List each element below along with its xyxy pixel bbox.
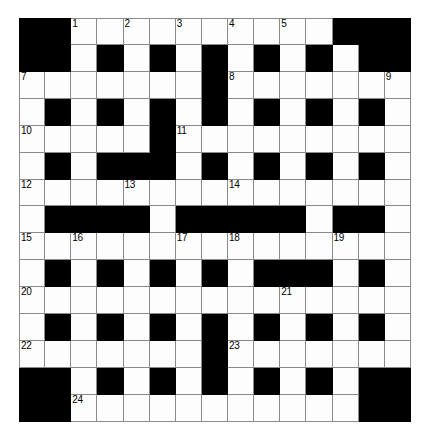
letter-cell[interactable] <box>71 180 97 207</box>
letter-cell[interactable] <box>19 260 45 287</box>
letter-cell[interactable]: 15 <box>19 233 45 260</box>
letter-cell[interactable] <box>124 260 150 287</box>
letter-cell[interactable] <box>254 233 280 260</box>
letter-cell[interactable] <box>71 153 97 180</box>
letter-cell[interactable]: 12 <box>19 180 45 207</box>
letter-cell[interactable] <box>385 314 411 341</box>
letter-cell[interactable] <box>359 72 385 99</box>
letter-cell[interactable] <box>45 287 71 314</box>
letter-cell[interactable] <box>97 126 123 153</box>
letter-cell[interactable]: 10 <box>19 126 45 153</box>
letter-cell[interactable] <box>124 314 150 341</box>
letter-cell[interactable] <box>306 341 332 368</box>
letter-cell[interactable] <box>45 180 71 207</box>
letter-cell[interactable] <box>333 314 359 341</box>
letter-cell[interactable] <box>71 260 97 287</box>
letter-cell[interactable] <box>228 126 254 153</box>
letter-cell[interactable] <box>385 180 411 207</box>
letter-cell[interactable] <box>306 395 332 422</box>
letter-cell[interactable] <box>228 314 254 341</box>
letter-cell[interactable] <box>124 368 150 395</box>
letter-cell[interactable] <box>176 341 202 368</box>
letter-cell[interactable] <box>19 99 45 126</box>
letter-cell[interactable] <box>280 72 306 99</box>
letter-cell[interactable] <box>202 18 228 45</box>
letter-cell[interactable] <box>176 368 202 395</box>
letter-cell[interactable] <box>385 341 411 368</box>
letter-cell[interactable] <box>97 18 123 45</box>
letter-cell[interactable] <box>280 45 306 72</box>
letter-cell[interactable] <box>254 126 280 153</box>
letter-cell[interactable] <box>124 287 150 314</box>
letter-cell[interactable]: 13 <box>124 180 150 207</box>
letter-cell[interactable] <box>228 99 254 126</box>
letter-cell[interactable] <box>359 233 385 260</box>
letter-cell[interactable] <box>254 341 280 368</box>
letter-cell[interactable] <box>150 233 176 260</box>
letter-cell[interactable] <box>333 287 359 314</box>
letter-cell[interactable] <box>124 341 150 368</box>
letter-cell[interactable] <box>71 72 97 99</box>
letter-cell[interactable] <box>124 126 150 153</box>
letter-cell[interactable] <box>333 45 359 72</box>
letter-cell[interactable]: 19 <box>333 233 359 260</box>
letter-cell[interactable]: 18 <box>228 233 254 260</box>
letter-cell[interactable] <box>306 18 332 45</box>
letter-cell[interactable] <box>71 314 97 341</box>
letter-cell[interactable]: 14 <box>228 180 254 207</box>
letter-cell[interactable] <box>280 153 306 180</box>
letter-cell[interactable] <box>306 72 332 99</box>
letter-cell[interactable] <box>150 18 176 45</box>
letter-cell[interactable] <box>333 341 359 368</box>
letter-cell[interactable] <box>385 287 411 314</box>
letter-cell[interactable] <box>385 153 411 180</box>
letter-cell[interactable] <box>124 45 150 72</box>
letter-cell[interactable] <box>176 395 202 422</box>
letter-cell[interactable] <box>333 153 359 180</box>
letter-cell[interactable] <box>19 206 45 233</box>
letter-cell[interactable] <box>280 99 306 126</box>
letter-cell[interactable]: 2 <box>124 18 150 45</box>
letter-cell[interactable] <box>45 72 71 99</box>
letter-cell[interactable] <box>150 206 176 233</box>
letter-cell[interactable] <box>150 72 176 99</box>
letter-cell[interactable] <box>385 126 411 153</box>
letter-cell[interactable] <box>71 287 97 314</box>
letter-cell[interactable] <box>333 126 359 153</box>
letter-cell[interactable] <box>202 395 228 422</box>
crossword-grid[interactable]: 12345789101112131415161718192021222324 <box>19 18 411 422</box>
letter-cell[interactable] <box>97 395 123 422</box>
letter-cell[interactable] <box>333 368 359 395</box>
letter-cell[interactable]: 5 <box>280 18 306 45</box>
letter-cell[interactable] <box>202 126 228 153</box>
letter-cell[interactable] <box>333 395 359 422</box>
letter-cell[interactable] <box>19 153 45 180</box>
letter-cell[interactable] <box>150 287 176 314</box>
letter-cell[interactable]: 22 <box>19 341 45 368</box>
letter-cell[interactable] <box>254 18 280 45</box>
letter-cell[interactable] <box>280 180 306 207</box>
letter-cell[interactable]: 7 <box>19 72 45 99</box>
letter-cell[interactable] <box>359 126 385 153</box>
letter-cell[interactable]: 4 <box>228 18 254 45</box>
letter-cell[interactable]: 1 <box>71 18 97 45</box>
letter-cell[interactable] <box>254 395 280 422</box>
letter-cell[interactable] <box>202 180 228 207</box>
letter-cell[interactable] <box>280 233 306 260</box>
letter-cell[interactable] <box>19 314 45 341</box>
letter-cell[interactable] <box>176 287 202 314</box>
letter-cell[interactable] <box>176 99 202 126</box>
letter-cell[interactable]: 3 <box>176 18 202 45</box>
letter-cell[interactable] <box>228 153 254 180</box>
letter-cell[interactable]: 23 <box>228 341 254 368</box>
letter-cell[interactable]: 21 <box>280 287 306 314</box>
letter-cell[interactable] <box>97 341 123 368</box>
letter-cell[interactable] <box>176 153 202 180</box>
letter-cell[interactable] <box>359 180 385 207</box>
letter-cell[interactable] <box>97 233 123 260</box>
letter-cell[interactable] <box>385 206 411 233</box>
letter-cell[interactable] <box>97 287 123 314</box>
letter-cell[interactable] <box>71 45 97 72</box>
letter-cell[interactable] <box>228 368 254 395</box>
letter-cell[interactable] <box>306 233 332 260</box>
